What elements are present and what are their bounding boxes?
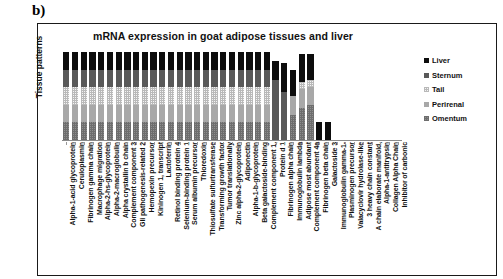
stacked-bar[interactable] bbox=[89, 52, 95, 140]
stacked-bar[interactable] bbox=[316, 122, 322, 140]
axis-tick bbox=[398, 142, 399, 145]
bar-segment-sternum bbox=[142, 70, 148, 88]
bar-segment-omentum bbox=[159, 122, 165, 140]
stacked-bar[interactable] bbox=[142, 52, 148, 140]
legend-item-omentum[interactable]: Omentum bbox=[424, 114, 494, 123]
stacked-bar[interactable] bbox=[264, 52, 270, 140]
bar-segment-omentum bbox=[98, 122, 104, 140]
stacked-bar[interactable] bbox=[281, 63, 287, 140]
x-axis-label: Beta galactoside-binding bbox=[254, 142, 263, 279]
axis-tick bbox=[380, 142, 381, 145]
x-axis-label: Thioredoxin bbox=[193, 142, 202, 279]
stacked-bar[interactable] bbox=[246, 52, 252, 140]
stacked-bar[interactable] bbox=[116, 52, 122, 140]
stacked-bar[interactable] bbox=[133, 52, 139, 140]
stacked-bar[interactable] bbox=[238, 52, 244, 140]
bar-slot bbox=[263, 52, 272, 140]
stacked-bar[interactable] bbox=[194, 52, 200, 140]
axis-tick bbox=[171, 142, 172, 145]
axis-tick bbox=[319, 142, 320, 145]
bar-slot bbox=[306, 52, 315, 140]
stacked-bar[interactable] bbox=[211, 52, 217, 140]
stacked-bar[interactable] bbox=[63, 52, 69, 140]
stacked-bar[interactable] bbox=[185, 52, 191, 140]
stacked-bar[interactable] bbox=[177, 52, 183, 140]
bar-slot bbox=[79, 52, 88, 140]
axis-tick bbox=[180, 142, 181, 145]
bar-segment-omentum bbox=[133, 122, 139, 140]
axis-tick bbox=[197, 142, 198, 145]
stacked-bar[interactable] bbox=[307, 54, 313, 140]
bar-segment-perirenal bbox=[133, 105, 139, 123]
legend-item-perirenal[interactable]: Perirenal bbox=[424, 100, 494, 109]
legend-item-liver[interactable]: Liver bbox=[424, 56, 494, 65]
stacked-bar[interactable] bbox=[290, 70, 296, 140]
stacked-bar[interactable] bbox=[272, 61, 278, 140]
bar-segment-omentum bbox=[124, 122, 130, 140]
stacked-bar[interactable] bbox=[229, 52, 235, 140]
bar-segment-tail bbox=[255, 87, 261, 105]
x-axis-label: Alpha-2-hs-glycoprotein bbox=[97, 142, 106, 279]
bar-segment-perirenal bbox=[89, 105, 95, 123]
stacked-bar[interactable] bbox=[203, 52, 209, 140]
bar-slot bbox=[376, 52, 385, 140]
bar-slot bbox=[210, 52, 219, 140]
bar-slot bbox=[385, 52, 394, 140]
x-axis-label: 3 heavy chain constant bbox=[358, 142, 367, 279]
bar-segment-omentum bbox=[177, 122, 183, 140]
bar-segment-sternum bbox=[168, 70, 174, 88]
bar-segment-sternum bbox=[238, 70, 244, 88]
stacked-bar[interactable] bbox=[150, 52, 156, 140]
bar-slot bbox=[132, 52, 141, 140]
stacked-bar[interactable] bbox=[220, 52, 226, 140]
x-axis-label: Immunoglobulin lambda bbox=[289, 142, 298, 279]
bar-segment-liver bbox=[107, 52, 113, 70]
bar-segment-omentum bbox=[63, 122, 69, 140]
bar-segment-tail bbox=[177, 87, 183, 105]
stacked-bar[interactable] bbox=[168, 52, 174, 140]
stacked-bar[interactable] bbox=[159, 52, 165, 140]
stacked-bar[interactable] bbox=[72, 52, 78, 140]
stacked-bar[interactable] bbox=[255, 52, 261, 140]
bar-segment-sternum bbox=[220, 70, 226, 88]
axis-tick bbox=[389, 142, 390, 145]
axis-tick bbox=[101, 142, 102, 145]
bar-segment-liver bbox=[177, 52, 183, 70]
stacked-bar[interactable] bbox=[299, 54, 305, 140]
axis-tick bbox=[223, 142, 224, 145]
bar-segment-liver bbox=[168, 52, 174, 70]
x-axis-label: Serum albumin precursor bbox=[184, 142, 193, 279]
legend-item-label: Liver bbox=[432, 56, 450, 65]
bar-segment-tail bbox=[264, 87, 270, 105]
bar-segment-perirenal bbox=[203, 105, 209, 123]
bar-segment-tail bbox=[299, 82, 305, 89]
bar-segment-tail bbox=[159, 87, 165, 105]
bar-segment-perirenal bbox=[290, 96, 296, 115]
bar-segment-perirenal bbox=[150, 105, 156, 123]
stacked-bar[interactable] bbox=[81, 52, 87, 140]
x-axis-label: Alpha-2-macroglobulin bbox=[106, 142, 115, 279]
stacked-bar[interactable] bbox=[107, 52, 113, 140]
stacked-bar[interactable] bbox=[98, 52, 104, 140]
bar-slot bbox=[358, 52, 367, 140]
legend-item-tail[interactable]: Tail bbox=[424, 85, 494, 94]
bar-segment-perirenal bbox=[220, 105, 226, 123]
axis-tick bbox=[119, 142, 120, 145]
bar-slot bbox=[350, 52, 359, 140]
legend-item-sternum[interactable]: Sternum bbox=[424, 71, 494, 80]
bar-segment-liver bbox=[194, 52, 200, 70]
bar-slot bbox=[193, 52, 202, 140]
bar-slot bbox=[158, 52, 167, 140]
chart-title: mRNA expression in goat adipose tissues … bbox=[38, 30, 408, 42]
stacked-bar[interactable] bbox=[325, 122, 331, 140]
bar-segment-liver bbox=[290, 70, 296, 96]
x-axis-label: Alpha-1-antitrypsin bbox=[376, 142, 385, 279]
bar-segment-liver bbox=[299, 54, 305, 82]
axis-tick bbox=[241, 142, 242, 145]
x-axis-label: Collagen Alpha Chain bbox=[385, 142, 394, 279]
axis-tick bbox=[284, 142, 285, 145]
stacked-bar[interactable] bbox=[124, 52, 130, 140]
bar-segment-omentum bbox=[246, 122, 252, 140]
bar-segment-perirenal bbox=[124, 105, 130, 123]
axis-tick bbox=[249, 142, 250, 145]
